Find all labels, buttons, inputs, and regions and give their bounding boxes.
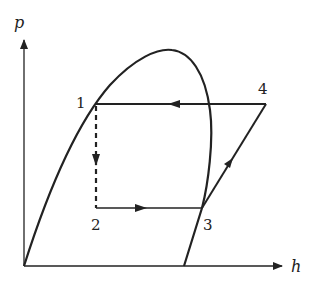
- y-axis-label: p: [14, 13, 24, 32]
- saturation-dome: [24, 50, 211, 266]
- point-label-3: 3: [203, 216, 213, 234]
- arrow-right-icon: [135, 204, 147, 212]
- point-label-4: 4: [258, 80, 268, 98]
- point-label-1: 1: [76, 94, 86, 112]
- arrow-left-icon: [168, 100, 180, 108]
- p-h-diagram: p h 1 2 3 4: [0, 0, 317, 285]
- arrow-down-icon: [92, 154, 100, 166]
- point-label-2: 2: [91, 216, 101, 234]
- arrow-up-right-icon: [224, 158, 233, 168]
- x-axis-label: h: [291, 257, 301, 276]
